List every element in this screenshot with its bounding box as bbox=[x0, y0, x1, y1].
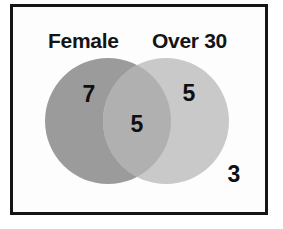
count-outside-sets: 3 bbox=[221, 163, 247, 186]
venn-diagram-figure: Female Over 30 7 5 5 3 bbox=[0, 0, 283, 229]
count-left-only: 7 bbox=[76, 83, 102, 106]
right-set-label: Over 30 bbox=[152, 30, 227, 51]
left-set-label: Female bbox=[48, 30, 119, 51]
count-intersection: 5 bbox=[124, 113, 150, 136]
count-right-only: 5 bbox=[176, 82, 202, 105]
